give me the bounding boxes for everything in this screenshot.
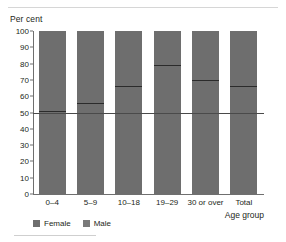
y-tick-mark	[30, 161, 33, 162]
legend-swatch-icon	[33, 220, 40, 227]
bar-segment-divider	[115, 86, 142, 87]
x-axis-title: Age group	[225, 210, 264, 220]
legend-item[interactable]: Female	[33, 219, 71, 228]
x-tick-label: 10–18	[118, 198, 140, 207]
legend-item[interactable]: Male	[83, 219, 111, 228]
y-tick-mark	[30, 79, 33, 80]
plot-area: 1009080706050403020100	[33, 31, 263, 194]
y-tick-mark	[30, 177, 33, 178]
bar-segment-divider	[230, 86, 257, 87]
x-tick-label: Total	[235, 198, 252, 207]
y-tick-mark	[30, 47, 33, 48]
y-tick-mark	[30, 145, 33, 146]
top-divider-rule	[8, 7, 278, 8]
y-axis-label: Per cent	[10, 14, 42, 24]
x-tick-label: 0–4	[45, 198, 58, 207]
x-axis-line	[33, 194, 264, 195]
figure-container: Per cent 1009080706050403020100 0–45–910…	[0, 0, 286, 242]
legend-label: Male	[94, 219, 111, 228]
bar-segment-divider	[154, 65, 181, 66]
y-tick-mark	[30, 63, 33, 64]
x-tick-label: 5–9	[84, 198, 97, 207]
y-tick-mark	[30, 96, 33, 97]
reference-line-50	[33, 113, 264, 114]
legend-swatch-icon	[83, 220, 90, 227]
bar-segment-divider	[192, 80, 219, 81]
y-tick-mark	[30, 128, 33, 129]
x-tick-label: 19–29	[156, 198, 178, 207]
chart-legend: FemaleMale	[33, 219, 111, 228]
bar-segment-divider	[77, 103, 104, 104]
bottom-divider-rule	[14, 235, 96, 236]
legend-label: Female	[44, 219, 71, 228]
x-tick-label: 30 or over	[187, 198, 223, 207]
y-tick-mark	[30, 194, 33, 195]
y-tick-mark	[30, 112, 33, 113]
y-tick-mark	[30, 31, 33, 32]
